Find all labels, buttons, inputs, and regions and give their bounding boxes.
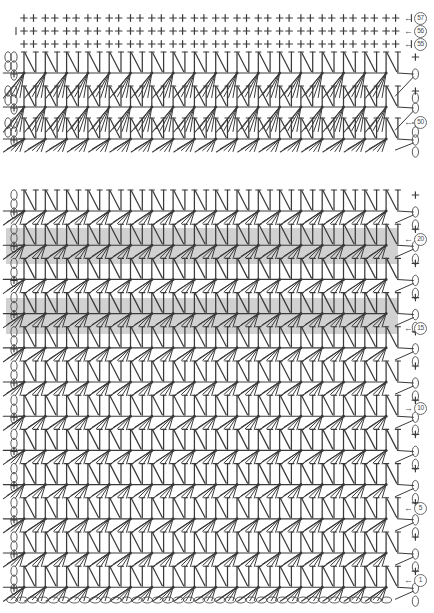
row-number-label-15: ←15 — [404, 322, 427, 335]
row-number-label-20: ←20 — [404, 233, 427, 246]
row-number-label-10: →10 — [404, 402, 427, 415]
row-arrow-icon: ← — [404, 27, 413, 36]
row-arrow-icon: ← — [404, 504, 413, 513]
row-number-badge: 55 — [414, 38, 427, 51]
row-arrow-icon: ← — [404, 324, 413, 333]
row-number-badge: 15 — [414, 322, 427, 335]
row-number-badge: 5 — [414, 502, 427, 515]
crochet-chart-canvas — [0, 0, 434, 613]
row-number-label-1: ←1 — [404, 574, 427, 587]
row-number-badge: 10 — [414, 402, 427, 415]
row-number-badge: 20 — [414, 233, 427, 246]
row-arrow-icon: ← — [404, 118, 413, 127]
row-number-label-55: ←55 — [404, 38, 427, 51]
row-arrow-icon: ← — [404, 14, 413, 23]
row-number-label-57: ←57 — [404, 12, 427, 25]
row-number-badge: 50 — [414, 116, 427, 129]
row-number-label-5: ←5 — [404, 502, 427, 515]
row-number-label-56: ←56 — [404, 25, 427, 38]
row-arrow-icon: → — [404, 404, 413, 413]
row-arrow-icon: ← — [404, 235, 413, 244]
row-number-badge: 57 — [414, 12, 427, 25]
row-number-label-50: ←50 — [404, 116, 427, 129]
row-arrow-icon: ← — [404, 576, 413, 585]
row-number-badge: 56 — [414, 25, 427, 38]
row-number-badge: 1 — [414, 574, 427, 587]
row-arrow-icon: ← — [404, 40, 413, 49]
